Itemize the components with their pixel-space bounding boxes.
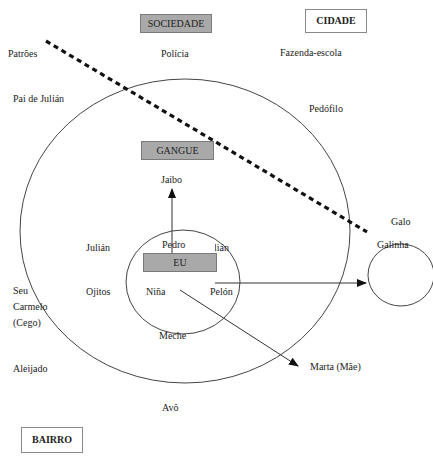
gangue-box: GANGUE	[141, 141, 214, 160]
label-meche: Meche	[159, 331, 186, 341]
label-pai-de-julian: Pai de Julián	[13, 94, 64, 104]
label-pedro: Pedro	[162, 240, 185, 250]
label-galo: Galo	[391, 217, 410, 227]
label-pelon: Pelón	[210, 287, 233, 297]
label-aleijado: Aleijado	[13, 364, 47, 374]
label-nina: Niña	[146, 287, 165, 297]
label-marta-mae: Marta (Mãe)	[310, 362, 361, 372]
label-seu-carmelo-cego: Seu Carmelo (Cego)	[13, 283, 47, 331]
label-ojitos: Ojitos	[86, 287, 110, 297]
arrow-eu-to-marta	[180, 290, 298, 366]
label-fazenda-escola: Fazenda-escola	[280, 48, 342, 58]
diagram-canvas	[0, 0, 433, 460]
label-patroes: Patrões	[8, 49, 37, 59]
eu-box: EU	[143, 253, 217, 272]
label-galinha: Galinha	[377, 240, 409, 250]
dashed-divider-line	[46, 41, 367, 232]
label-pedofilo: Pedófilo	[309, 104, 343, 114]
label-avo: Avô	[162, 403, 178, 413]
galo-galinha-circle	[368, 244, 433, 306]
label-julian-outer: Julián	[86, 243, 110, 253]
label-jaibo: Jaibo	[161, 175, 182, 185]
bairro-box: BAIRRO	[21, 427, 83, 453]
sociedade-box: SOCIEDADE	[140, 14, 212, 33]
label-policia: Polícia	[161, 49, 189, 59]
cidade-box: CIDADE	[305, 9, 367, 33]
